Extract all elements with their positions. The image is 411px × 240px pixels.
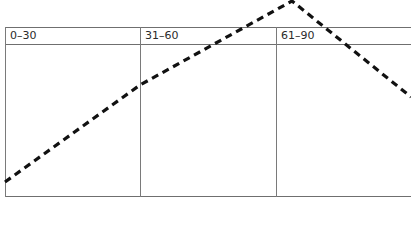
- column-divider-2: [276, 27, 277, 197]
- column-header-31-60: 31–60: [141, 28, 275, 44]
- table-bottom-border: [5, 196, 411, 197]
- column-header-0-30: 0–30: [6, 28, 140, 44]
- header-bottom-border: [5, 44, 411, 45]
- column-header-61-90: 61–90: [277, 28, 411, 44]
- column-divider-1: [140, 27, 141, 197]
- range-table: 0–30 31–60 61–90: [5, 27, 411, 197]
- table-left-border: [5, 27, 6, 197]
